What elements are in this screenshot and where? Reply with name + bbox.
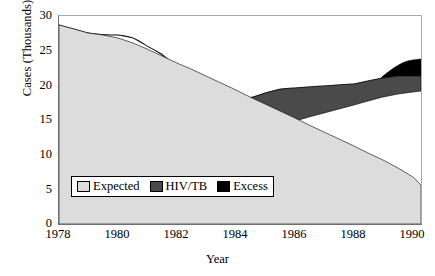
y-tick-10: 10 (22, 148, 52, 160)
y-tick-20: 20 (22, 79, 52, 91)
y-tick-25: 25 (22, 44, 52, 56)
x-tick-1990: 1990 (387, 228, 435, 240)
legend-swatch-excess (217, 181, 230, 192)
legend-label-expected: Expected (93, 180, 140, 193)
x-tick-1982: 1982 (151, 228, 201, 240)
legend-label-excess: Excess (233, 180, 268, 193)
legend-swatch-hivtb (150, 181, 163, 192)
legend-item-hivtb: HIV/TB (150, 180, 208, 193)
x-tick-1986: 1986 (269, 228, 319, 240)
legend-label-hivtb: HIV/TB (166, 180, 208, 193)
x-tick-1988: 1988 (328, 228, 378, 240)
legend-item-expected: Expected (77, 180, 140, 193)
legend-item-excess: Excess (217, 180, 268, 193)
chart-legend: Expected HIV/TB Excess (71, 176, 274, 197)
y-tick-15: 15 (22, 113, 52, 125)
plot-area: Expected HIV/TB Excess (58, 15, 422, 225)
x-axis-label: Year (0, 252, 435, 267)
x-tick-1978: 1978 (33, 228, 83, 240)
y-tick-5: 5 (22, 183, 52, 195)
y-tick-30: 30 (22, 9, 52, 21)
x-tick-1980: 1980 (92, 228, 142, 240)
legend-swatch-expected (77, 181, 90, 192)
x-tick-1984: 1984 (210, 228, 260, 240)
chart-figure: Cases (Thousands) 30 25 20 15 10 5 0 Exp… (0, 0, 435, 276)
